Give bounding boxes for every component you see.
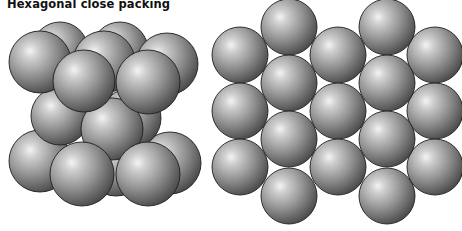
sphere-c2-r1 bbox=[261, 0, 317, 55]
sphere-bottom-front-right bbox=[116, 142, 180, 206]
top-down-view bbox=[212, 0, 462, 224]
sphere-bottom-front-left bbox=[50, 142, 114, 206]
sphere-c1-r1 bbox=[212, 27, 268, 83]
sphere-c2-r2 bbox=[261, 55, 317, 111]
sphere-c5-r1 bbox=[407, 27, 462, 83]
sphere-c3-r3 bbox=[310, 139, 366, 195]
sphere-top-front-left bbox=[53, 50, 115, 112]
sphere-c4-r1 bbox=[359, 0, 415, 55]
sphere-c4-r4 bbox=[359, 168, 415, 224]
sphere-c4-r3 bbox=[359, 111, 415, 167]
sphere-c4-r2 bbox=[359, 55, 415, 111]
sphere-c5-r2 bbox=[407, 83, 462, 139]
sphere-c3-r1 bbox=[310, 27, 366, 83]
sphere-c2-r3 bbox=[261, 111, 317, 167]
sphere-c3-r2 bbox=[310, 83, 366, 139]
sphere-top-front-right bbox=[116, 50, 180, 114]
sphere-c1-r3 bbox=[212, 139, 268, 195]
sphere-c1-r2 bbox=[212, 83, 268, 139]
hcp-diagram bbox=[0, 0, 462, 231]
sphere-c5-r3 bbox=[407, 139, 462, 195]
side-perspective-view bbox=[9, 22, 201, 206]
sphere-c2-r4 bbox=[261, 168, 317, 224]
